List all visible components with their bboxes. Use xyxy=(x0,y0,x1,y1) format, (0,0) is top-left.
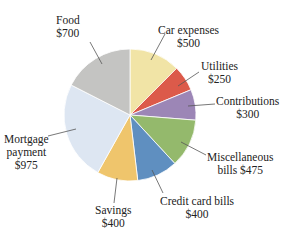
label-misc-name: Miscellaneous xyxy=(207,151,273,164)
label-utilities-name: Utilities xyxy=(201,60,238,73)
label-utilities: Utilities $250 xyxy=(201,60,238,86)
label-miscellaneous: Miscellaneous bills $475 xyxy=(207,151,273,177)
label-car-name: Car expenses xyxy=(158,24,219,37)
label-credit-value: $400 xyxy=(160,208,234,221)
leader-savings xyxy=(114,178,117,203)
label-food-name: Food xyxy=(56,14,80,27)
label-food-value: $700 xyxy=(56,27,80,40)
label-contributions-name: Contributions xyxy=(216,95,279,108)
label-car-value: $500 xyxy=(158,37,219,50)
label-savings: Savings $400 xyxy=(95,204,131,230)
label-mortgage-payment: Mortgage payment $975 xyxy=(4,133,49,172)
label-credit-name: Credit card bills xyxy=(160,195,234,208)
label-contributions: Contributions $300 xyxy=(216,95,279,121)
label-utilities-value: $250 xyxy=(201,73,238,86)
label-savings-value: $400 xyxy=(95,217,131,230)
label-savings-name: Savings xyxy=(95,204,131,217)
label-mortgage-value: $975 xyxy=(4,159,49,172)
label-mortgage-name-1: Mortgage xyxy=(4,133,49,146)
pie-slices xyxy=(64,49,196,181)
label-car-expenses: Car expenses $500 xyxy=(158,24,219,50)
label-food: Food $700 xyxy=(56,14,80,40)
label-contributions-value: $300 xyxy=(216,108,279,121)
label-mortgage-name-2: payment xyxy=(4,146,49,159)
label-credit-card-bills: Credit card bills $400 xyxy=(160,195,234,221)
label-misc-value: bills $475 xyxy=(207,164,273,177)
